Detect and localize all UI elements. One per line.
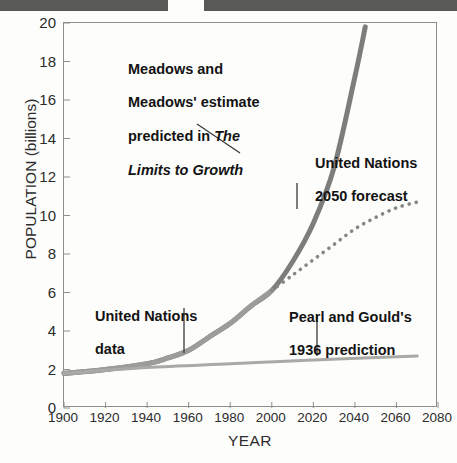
annotation-un-data: United Nations data (95, 291, 205, 358)
series-line-2 (272, 202, 417, 291)
annotation-pearl-line1: Pearl and Gould's (289, 309, 412, 325)
y-axis-title: POPULATION (billions) (22, 64, 40, 294)
annotation-meadows-title-part2: Limits to Growth (128, 162, 243, 178)
x-tick-1940: 1940 (131, 411, 161, 425)
annotation-meadows-line3: predicted in (128, 128, 214, 144)
annotation-meadows-line1: Meadows and (128, 61, 223, 77)
y-tick-4: 4 (16, 323, 56, 338)
x-tick-2060: 2060 (380, 411, 410, 425)
scan-artifact-bar-right (204, 0, 457, 11)
annotation-meadows-title-part1: The (214, 128, 240, 144)
y-tick-20: 20 (16, 15, 56, 30)
annotation-un-data-line1: United Nations (95, 308, 197, 324)
annotation-un-data-line2: data (95, 341, 125, 357)
annotation-un-forecast-line1: United Nations (315, 155, 417, 171)
y-tick-2: 2 (16, 361, 56, 376)
annotation-meadows-estimate: Meadows and Meadows' estimate predicted … (128, 44, 263, 179)
x-axis-tick-labels: 1900192019401960198020002020204020602080 (63, 411, 437, 431)
annotation-un-forecast-line2: 2050 forecast (315, 188, 408, 204)
x-axis-title: YEAR (63, 432, 437, 450)
annotation-pearl-gould-prediction: Pearl and Gould's 1936 prediction (289, 292, 434, 359)
annotation-pearl-line2: 1936 prediction (289, 342, 395, 358)
x-tick-2080: 2080 (422, 411, 452, 425)
x-tick-2000: 2000 (256, 411, 286, 425)
annotation-meadows-line2: Meadows' estimate (128, 94, 260, 110)
x-tick-2020: 2020 (297, 411, 327, 425)
x-tick-1920: 1920 (90, 411, 120, 425)
x-tick-2040: 2040 (339, 411, 369, 425)
x-tick-1900: 1900 (48, 411, 78, 425)
scan-artifact-bar-left (0, 0, 168, 11)
x-tick-1960: 1960 (173, 411, 203, 425)
population-projection-figure: 02468101214161820 1900192019401960198020… (0, 0, 457, 463)
annotation-un-2050-forecast: United Nations 2050 forecast (315, 138, 440, 205)
x-tick-1980: 1980 (214, 411, 244, 425)
